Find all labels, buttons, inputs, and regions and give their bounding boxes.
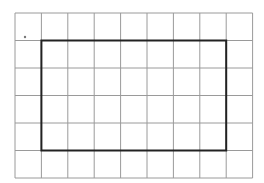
grid-diagram bbox=[0, 0, 264, 183]
grid-lines bbox=[15, 13, 253, 178]
point-marker bbox=[24, 36, 26, 38]
